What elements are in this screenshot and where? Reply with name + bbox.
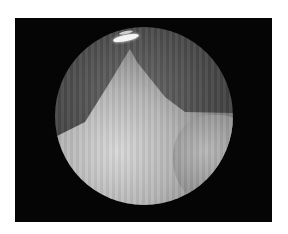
endoscope-field-of-view <box>55 27 233 205</box>
scan-line-artifact <box>55 27 233 205</box>
image-frame <box>15 18 272 222</box>
